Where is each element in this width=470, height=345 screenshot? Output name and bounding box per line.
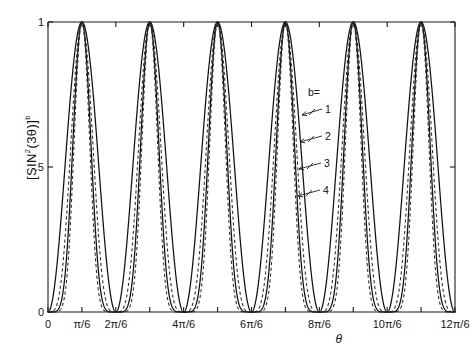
y-tick-label: .5 (18, 162, 44, 173)
x-tick-label: 0 (45, 319, 51, 330)
legend-item-label-2: 2 (325, 130, 331, 142)
x-tick-label: 8π/6 (308, 319, 331, 330)
curve-b-2 (48, 22, 455, 312)
figure-plot-sin-squared-3theta: [SIN2(3θ)]b θ b= 1.50 0π/62π/64π/66π/68π… (0, 0, 470, 345)
legend-item-label-3: 3 (324, 157, 330, 169)
legend-leader-slash-1 (309, 109, 315, 115)
data-curves (48, 22, 455, 312)
y-axis-label-exponent-2: 2 (23, 149, 32, 154)
legend-leader-slash-4 (306, 190, 312, 196)
legend-item-label-1: 1 (325, 103, 331, 115)
x-tick-label: π/6 (74, 319, 91, 330)
axis-ticks (48, 22, 455, 312)
y-axis-label-exponent-b: b (23, 115, 32, 120)
x-tick-label: 2π/6 (104, 319, 127, 330)
curve-b-4 (48, 22, 455, 312)
y-axis-label: [SIN2(3θ)]b (23, 83, 38, 213)
y-tick-label: 1 (18, 17, 44, 28)
legend-title: b= (308, 86, 320, 98)
curve-b-3 (48, 22, 455, 312)
curve-b-1 (48, 22, 455, 312)
plot-canvas (0, 0, 470, 345)
x-axis-label: θ (335, 332, 342, 345)
axes-frame (48, 22, 455, 312)
legend-leader-slash-2 (308, 136, 314, 142)
legend-item-label-4: 4 (323, 184, 329, 196)
y-axis-label-arg: (3θ)] (24, 120, 39, 149)
x-tick-label: 6π/6 (240, 319, 263, 330)
legend-leader-slash-3 (307, 163, 313, 169)
y-tick-label: 0 (18, 307, 44, 318)
x-tick-label: 4π/6 (172, 319, 195, 330)
x-tick-label: 12π/6 (441, 319, 470, 330)
x-tick-label: 10π/6 (373, 319, 402, 330)
